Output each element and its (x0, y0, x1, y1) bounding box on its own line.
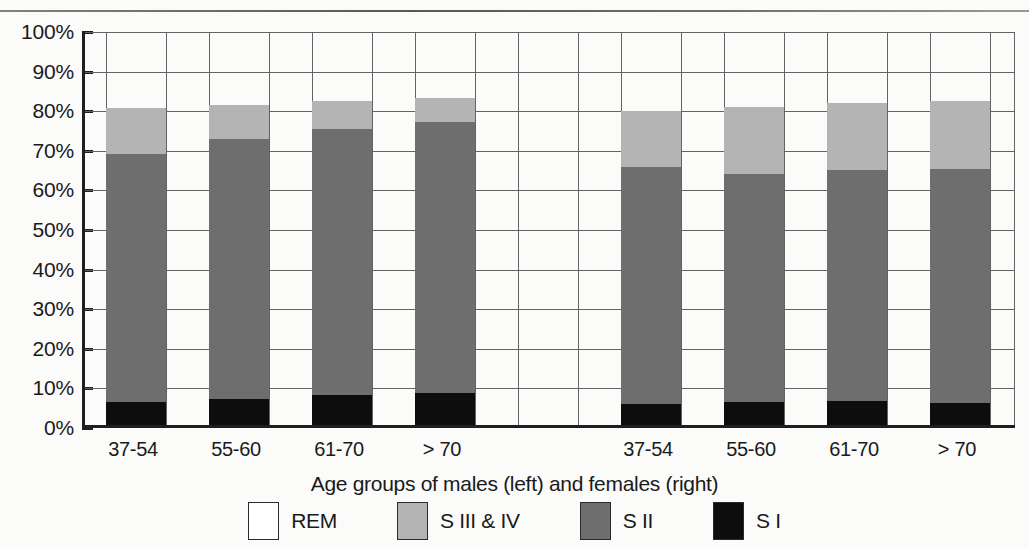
segment-s1 (312, 395, 372, 425)
bar-female-37-54 (621, 29, 681, 425)
y-tick-label: 20% (4, 338, 74, 359)
segment-s1 (724, 402, 784, 425)
x-tick-label: 61-70 (799, 438, 909, 460)
y-tick-label: 10% (4, 377, 74, 398)
bar-male-61-70 (312, 29, 372, 425)
gridline-vertical (990, 32, 991, 425)
gridline-vertical (269, 32, 270, 425)
stacked-bar-chart-figure: 100%90%80%70%60%50%40%30%20%10%0% 37-545… (0, 0, 1029, 548)
bar-male-37-54 (106, 29, 166, 425)
y-tick-label: 40% (4, 259, 74, 280)
y-tick-label: 50% (4, 219, 74, 240)
segment-s2 (415, 122, 475, 392)
gridline-vertical (784, 32, 785, 425)
x-axis-title: Age groups of males (left) and females (… (0, 472, 1029, 496)
segment-s34 (724, 107, 784, 174)
legend-item: S II (580, 502, 653, 540)
segment-s1 (415, 393, 475, 425)
x-tick-label: 55-60 (181, 438, 291, 460)
legend-label: S II (623, 509, 653, 533)
gridline-vertical (887, 32, 888, 425)
legend-label: S III & IV (440, 509, 520, 533)
y-tick-label: 30% (4, 298, 74, 319)
gridline-vertical (372, 32, 373, 425)
segment-s2 (312, 129, 372, 396)
y-tick-label: 70% (4, 140, 74, 161)
segment-s1 (621, 404, 681, 425)
segment-s1 (827, 401, 887, 425)
segment-s34 (209, 105, 269, 138)
segment-s34 (621, 111, 681, 167)
segment-s34 (415, 98, 475, 122)
x-tick-label: 55-60 (696, 438, 806, 460)
bar-female-61-70 (827, 29, 887, 425)
s34-swatch (397, 502, 428, 540)
segment-s34 (827, 103, 887, 170)
segment-s2 (827, 170, 887, 401)
y-tick-label: 80% (4, 100, 74, 121)
gridline-vertical (518, 32, 519, 425)
segment-s1 (209, 399, 269, 425)
bar-male-70 (415, 29, 475, 425)
gridline-vertical (681, 32, 682, 425)
segment-s2 (930, 169, 990, 403)
segment-s2 (621, 167, 681, 405)
segment-s34 (106, 108, 166, 154)
segment-s2 (106, 154, 166, 402)
x-tick-label: > 70 (902, 438, 1012, 460)
y-tick-label: 100% (4, 21, 74, 42)
rem-swatch (248, 502, 279, 540)
x-tick-label: 37-54 (593, 438, 703, 460)
y-tick-label: 0% (4, 417, 74, 438)
plot-area (82, 32, 1015, 428)
gridline-vertical (578, 32, 579, 425)
legend-label: REM (291, 509, 337, 533)
bar-female-70 (930, 29, 990, 425)
segment-s34 (312, 101, 372, 129)
legend-item: REM (248, 502, 337, 540)
bar-female-55-60 (724, 29, 784, 425)
legend-item: S III & IV (397, 502, 520, 540)
x-tick-label: > 70 (387, 438, 497, 460)
chart-legend: REMS III & IVS IIS I (0, 502, 1029, 540)
y-axis-labels: 100%90%80%70%60%50%40%30%20%10%0% (0, 32, 74, 428)
s1-swatch (713, 502, 744, 540)
legend-item: S I (713, 502, 781, 540)
bar-male-55-60 (209, 29, 269, 425)
segment-s1 (106, 402, 166, 425)
segment-s1 (930, 403, 990, 425)
s2-swatch (580, 502, 611, 540)
gridline-vertical (166, 32, 167, 425)
y-tick-label: 90% (4, 61, 74, 82)
segment-s34 (930, 101, 990, 169)
segment-s2 (724, 174, 784, 402)
y-tick-label: 60% (4, 179, 74, 200)
legend-label: S I (756, 509, 781, 533)
segment-s2 (209, 139, 269, 400)
x-tick-label: 61-70 (284, 438, 394, 460)
x-tick-label: 37-54 (78, 438, 188, 460)
gridline-vertical (475, 32, 476, 425)
